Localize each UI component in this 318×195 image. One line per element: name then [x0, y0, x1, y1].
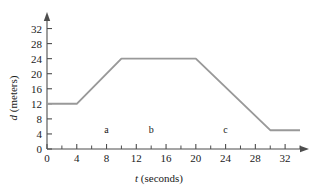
plot-canvas	[0, 0, 318, 195]
y-tick-label: 20	[31, 68, 42, 79]
y-axis-symbol: d	[7, 114, 19, 120]
x-tick-label: 8	[104, 153, 110, 164]
y-tick-label: 28	[31, 38, 42, 49]
data-series-group	[47, 59, 300, 131]
y-tick-label: 32	[31, 23, 42, 34]
y-tick-label: 16	[31, 83, 42, 94]
y-tick-label: 0	[37, 144, 43, 155]
y-axis-arrowhead	[44, 12, 50, 21]
x-tick-label: 28	[250, 153, 261, 164]
x-tick-label: 16	[161, 153, 172, 164]
y-tick-label: 8	[37, 113, 43, 124]
x-tick-label: 4	[74, 153, 80, 164]
y-tick-label: 12	[31, 98, 42, 109]
interval-marker-b: b	[149, 125, 154, 135]
x-axis-arrowhead	[300, 146, 309, 152]
x-tick-label: 12	[131, 153, 142, 164]
x-tick-label: 24	[220, 153, 231, 164]
series-line	[47, 59, 300, 131]
y-axis-unit: (meters)	[7, 75, 19, 112]
x-tick-label: 20	[190, 153, 201, 164]
y-axis-title: d (meters)	[7, 53, 19, 143]
x-axis-unit: (seconds)	[141, 172, 183, 184]
x-tick-label: 32	[280, 153, 291, 164]
x-axis-symbol: t	[135, 172, 138, 184]
interval-marker-a: a	[104, 125, 108, 135]
ticks-group	[47, 29, 300, 149]
y-tick-label: 24	[31, 53, 42, 64]
y-tick-label: 4	[37, 128, 43, 139]
axes-group	[44, 12, 309, 152]
x-axis-title: t (seconds)	[0, 172, 318, 184]
distance-time-graph-figure: 048121620242832 048121620242832 abc d (m…	[0, 0, 318, 195]
interval-marker-c: c	[223, 125, 227, 135]
x-tick-label: 0	[44, 153, 50, 164]
